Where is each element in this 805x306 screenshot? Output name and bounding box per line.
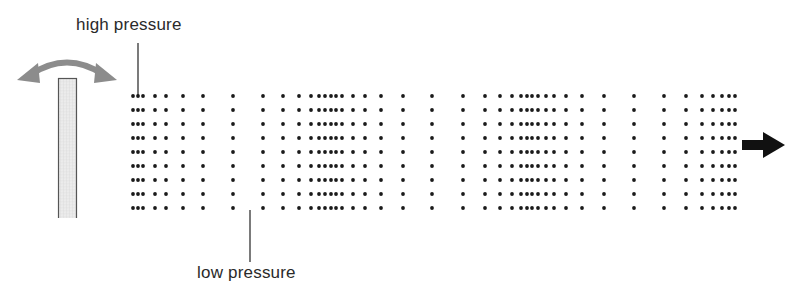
air-particle <box>519 94 523 98</box>
air-particle <box>602 122 606 126</box>
air-particle <box>297 150 301 154</box>
air-particle <box>733 206 737 210</box>
air-particle <box>317 150 321 154</box>
air-particle <box>564 178 568 182</box>
air-particle <box>525 178 529 182</box>
air-particle <box>525 136 529 140</box>
air-particle <box>727 94 731 98</box>
air-particle <box>363 164 367 168</box>
air-particle <box>136 150 140 154</box>
air-particle <box>340 136 344 140</box>
air-particle <box>136 192 140 196</box>
air-particle <box>261 108 265 112</box>
air-particle <box>552 192 556 196</box>
air-particle <box>329 164 333 168</box>
air-particle <box>564 136 568 140</box>
air-particle <box>530 178 534 182</box>
air-particle <box>727 192 731 196</box>
air-particle <box>281 164 285 168</box>
air-particle <box>483 192 487 196</box>
air-particle <box>510 94 514 98</box>
air-particle <box>498 178 502 182</box>
air-particle <box>181 94 185 98</box>
air-particle <box>510 136 514 140</box>
air-particle <box>519 108 523 112</box>
air-particle <box>536 108 540 112</box>
air-particle <box>510 122 514 126</box>
air-particle <box>536 136 540 140</box>
air-particle <box>297 136 301 140</box>
air-particle <box>261 206 265 210</box>
air-particle <box>711 136 715 140</box>
air-particle <box>552 164 556 168</box>
air-particle <box>720 150 724 154</box>
air-particle <box>602 178 606 182</box>
air-particle <box>136 122 140 126</box>
air-particle <box>498 122 502 126</box>
air-particle <box>461 122 465 126</box>
air-particle <box>632 178 636 182</box>
air-particle <box>525 122 529 126</box>
air-particle <box>153 192 157 196</box>
air-particle <box>363 94 367 98</box>
air-particle <box>525 192 529 196</box>
air-particle <box>231 94 235 98</box>
air-particle <box>141 122 145 126</box>
air-particle <box>552 136 556 140</box>
air-particle <box>632 164 636 168</box>
air-particle <box>340 164 344 168</box>
air-particle <box>632 206 636 210</box>
air-particle <box>309 206 313 210</box>
air-particle <box>536 122 540 126</box>
air-particle <box>530 94 534 98</box>
air-particle <box>317 164 321 168</box>
air-particle <box>525 150 529 154</box>
air-particle <box>530 108 534 112</box>
sound-wave-diagram: high pressure low pressure <box>0 0 805 306</box>
air-particle <box>164 178 168 182</box>
air-particle <box>552 94 556 98</box>
air-particle <box>430 94 434 98</box>
air-particle <box>231 178 235 182</box>
air-particle <box>580 178 584 182</box>
air-particle <box>334 206 338 210</box>
air-particle <box>363 192 367 196</box>
air-particle <box>700 136 704 140</box>
air-particle <box>309 192 313 196</box>
air-particle <box>720 122 724 126</box>
air-particle <box>317 136 321 140</box>
air-particle <box>231 136 235 140</box>
air-particle <box>727 206 731 210</box>
air-particle <box>340 108 344 112</box>
air-particle <box>700 108 704 112</box>
air-particle <box>309 122 313 126</box>
air-particle <box>602 164 606 168</box>
air-particle <box>297 122 301 126</box>
air-particle <box>317 178 321 182</box>
air-particle <box>363 178 367 182</box>
air-particle <box>351 164 355 168</box>
air-particle <box>483 178 487 182</box>
air-particle <box>733 150 737 154</box>
air-particle <box>334 150 338 154</box>
air-particle <box>552 206 556 210</box>
air-particle <box>580 150 584 154</box>
air-particle <box>632 94 636 98</box>
air-particle <box>684 164 688 168</box>
air-particle <box>281 94 285 98</box>
air-particle <box>461 108 465 112</box>
air-particle <box>141 178 145 182</box>
air-particle <box>684 136 688 140</box>
air-particle <box>602 136 606 140</box>
air-particle <box>164 94 168 98</box>
air-particle <box>363 136 367 140</box>
air-particle <box>201 94 205 98</box>
air-particle <box>181 164 185 168</box>
air-particle <box>281 178 285 182</box>
air-particle <box>498 136 502 140</box>
air-particle <box>281 108 285 112</box>
air-particle <box>323 94 327 98</box>
air-particle <box>261 164 265 168</box>
air-particle <box>684 122 688 126</box>
air-particle <box>544 192 548 196</box>
